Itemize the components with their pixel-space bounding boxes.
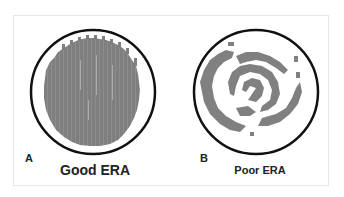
panel-a-caption: Good ERA — [60, 162, 130, 178]
panel-b-fill — [200, 42, 302, 136]
panel-b-letter: B — [200, 152, 208, 164]
panel-a-letter: A — [25, 152, 33, 164]
panel-a-fill — [44, 35, 140, 146]
figure-graphic — [0, 0, 344, 197]
panel-b-caption: Poor ERA — [230, 164, 290, 176]
